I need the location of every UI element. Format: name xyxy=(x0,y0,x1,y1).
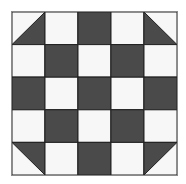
quilt-cell-light xyxy=(45,77,78,110)
quilt-cell-dark xyxy=(78,142,111,175)
quilt-cell-light xyxy=(78,45,111,78)
quilt-cell-tri-dark-bl xyxy=(144,12,177,45)
quilt-cell-light xyxy=(111,142,144,175)
quilt-cell-light xyxy=(144,110,177,143)
quilt-cell-dark xyxy=(45,110,78,143)
quilt-cell-tri-dark-tl xyxy=(144,142,177,175)
quilt-cell-dark xyxy=(12,77,45,110)
quilt-cell-light xyxy=(144,45,177,78)
quilt-cell-light xyxy=(45,12,78,45)
quilt-block xyxy=(11,11,178,176)
quilt-cell-tri-dark-br xyxy=(12,12,45,45)
quilt-cell-light xyxy=(12,45,45,78)
quilt-cell-dark xyxy=(78,12,111,45)
quilt-cell-light xyxy=(111,12,144,45)
quilt-cell-tri-dark-tr xyxy=(12,142,45,175)
quilt-cell-light xyxy=(12,110,45,143)
quilt-cell-dark xyxy=(45,45,78,78)
quilt-cell-light xyxy=(78,110,111,143)
quilt-cell-light xyxy=(45,142,78,175)
quilt-cell-dark xyxy=(78,77,111,110)
quilt-grid xyxy=(12,12,177,175)
quilt-cell-dark xyxy=(111,110,144,143)
quilt-cell-dark xyxy=(111,45,144,78)
quilt-cell-dark xyxy=(144,77,177,110)
quilt-cell-light xyxy=(111,77,144,110)
